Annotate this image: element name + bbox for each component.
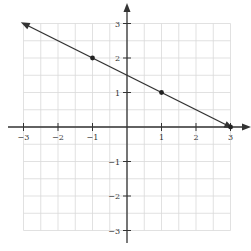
y-tick-label: −3 <box>108 227 120 236</box>
line-arrow-icon <box>21 22 31 29</box>
y-tick-label: −2 <box>108 192 120 201</box>
axes <box>8 3 251 243</box>
x-tick-label: 2 <box>193 133 198 142</box>
data-point <box>228 125 233 130</box>
y-tick-label: 2 <box>115 54 120 63</box>
x-axis-arrow-icon <box>242 124 251 131</box>
y-tick-label: 1 <box>115 89 120 98</box>
y-tick-label: −1 <box>108 158 120 167</box>
data-point <box>159 90 164 95</box>
y-axis-arrow-icon <box>124 3 131 12</box>
data-point <box>90 56 95 61</box>
x-tick-label: 1 <box>159 133 164 142</box>
x-tick-label: −2 <box>52 133 64 142</box>
y-tick-label: 3 <box>115 20 120 29</box>
coordinate-plane: −3−2−1123321−1−2−3 <box>0 0 251 251</box>
x-tick-label: −1 <box>87 133 99 142</box>
x-tick-label: −3 <box>18 133 30 142</box>
x-tick-label: 3 <box>228 133 233 142</box>
